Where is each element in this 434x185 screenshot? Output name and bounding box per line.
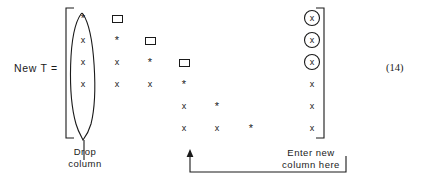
matrix-cell-x: x: [210, 124, 224, 133]
matrix-cell-pivot: *: [244, 124, 258, 133]
matrix-cell-pivot: *: [143, 58, 157, 67]
drop-column-caption: Drop column: [55, 146, 115, 169]
matrix-cell-circled-x: x: [305, 14, 319, 23]
enter-new-column-caption: Enter new column here: [268, 147, 354, 170]
matrix-cell-pivot: *: [210, 102, 224, 111]
matrix-lhs-label: New T =: [14, 62, 58, 74]
equation-number: (14): [386, 62, 404, 73]
matrix-cell-x: x: [305, 80, 319, 89]
matrix-cell-pivot: *: [76, 14, 90, 23]
matrix-cell-x: x: [177, 102, 191, 111]
matrix-cell-circled-x: x: [305, 58, 319, 67]
matrix-cell-x: x: [76, 36, 90, 45]
matrix-cell-box: [110, 14, 124, 23]
matrix-cell-box: [177, 58, 191, 67]
matrix-cell-pivot: *: [177, 80, 191, 89]
matrix-cell-x: x: [110, 58, 124, 67]
matrix-cell-x: x: [305, 124, 319, 133]
matrix-left-bracket: [66, 8, 74, 138]
matrix-right-bracket: [316, 8, 324, 138]
matrix-cell-x: x: [305, 102, 319, 111]
matrix-cell-x: x: [143, 80, 157, 89]
matrix-figure: New T = *xx*xxx*xxxx*xx*xxx*x Drop colum…: [0, 0, 434, 185]
matrix-cell-pivot: *: [110, 36, 124, 45]
enter-column-arrowhead: [187, 149, 194, 157]
drop-column-ellipse: [71, 13, 95, 140]
matrix-cell-x: x: [76, 80, 90, 89]
matrix-cell-x: x: [110, 80, 124, 89]
matrix-cell-box: [143, 36, 157, 45]
matrix-cell-x: x: [177, 124, 191, 133]
matrix-cell-circled-x: x: [305, 36, 319, 45]
matrix-cell-x: x: [76, 58, 90, 67]
